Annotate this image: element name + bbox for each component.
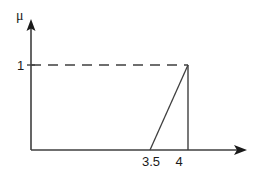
x-tick-label-4: 4 xyxy=(175,154,182,169)
x-tick-label-3-5: 3.5 xyxy=(142,154,160,169)
figure-root: μ 1 3.5 4 xyxy=(0,0,254,174)
membership-ramp-line xyxy=(150,65,188,150)
y-tick-label-1: 1 xyxy=(17,58,24,73)
mu-axis-label: μ xyxy=(16,8,24,23)
membership-function-chart: μ 1 3.5 4 xyxy=(0,0,254,174)
